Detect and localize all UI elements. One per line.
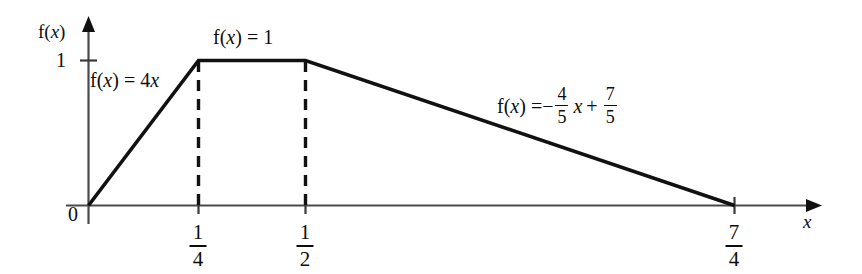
y-axis-label-text: f( — [38, 21, 51, 42]
annotation-falling-piece: f(x) = −45x+75 — [497, 86, 619, 127]
x-tick-label-seven-quarters: 7 4 — [726, 222, 743, 270]
y-tick-label-1: 1 — [56, 50, 66, 70]
y-axis-label: f(x) — [38, 22, 65, 41]
origin-label: 0 — [68, 204, 78, 224]
tick-seven-quarters-denominator: 4 — [729, 249, 740, 270]
falling-fraction-seven-fifths: 75 — [604, 85, 617, 126]
falling-var: x — [510, 96, 519, 116]
tick-one-quarter-denominator: 4 — [193, 249, 204, 270]
rising-var2: x — [150, 69, 159, 91]
rising-var: x — [103, 69, 112, 91]
y-axis-arrowhead — [82, 16, 95, 32]
falling-frac1-bar — [555, 105, 568, 107]
falling-frac2-bar — [604, 105, 617, 107]
rising-suffix: ) = 4 — [112, 69, 150, 91]
falling-minus-sign: − — [542, 96, 553, 116]
falling-equals: ) = — [519, 96, 542, 116]
tick-one-half-denominator: 2 — [300, 249, 311, 270]
falling-frac1-numerator: 4 — [555, 85, 568, 103]
function-curve — [89, 61, 735, 206]
tick-seven-quarters-numerator: 7 — [729, 222, 740, 243]
piecewise-function-figure: f(x) 1 0 x f(x) = 4x f(x) = 1 f(x) = −45… — [0, 0, 862, 274]
tick-one-half-numerator: 1 — [300, 222, 311, 243]
plateau-suffix: ) = 1 — [235, 26, 273, 48]
y-axis-label-var: x — [51, 21, 59, 42]
falling-fraction-four-fifths: 45 — [555, 85, 568, 126]
x-tick-label-one-half: 1 2 — [297, 222, 314, 270]
x-tick-label-one-quarter: 1 4 — [190, 222, 207, 270]
falling-equation: f(x) = −45x+75 — [497, 86, 619, 127]
annotation-plateau-piece: f(x) = 1 — [213, 27, 273, 47]
falling-plus-sign: + — [586, 96, 597, 116]
falling-prefix: f( — [497, 96, 510, 116]
falling-frac2-denominator: 5 — [604, 108, 617, 126]
falling-var2: x — [573, 96, 582, 116]
plateau-var: x — [226, 26, 235, 48]
falling-frac1-denominator: 5 — [555, 108, 568, 126]
tick-one-quarter-numerator: 1 — [193, 222, 204, 243]
falling-frac2-numerator: 7 — [604, 85, 617, 103]
annotation-rising-piece: f(x) = 4x — [90, 70, 159, 90]
plateau-prefix: f( — [213, 26, 226, 48]
rising-prefix: f( — [90, 69, 103, 91]
x-axis-label: x — [803, 212, 811, 231]
